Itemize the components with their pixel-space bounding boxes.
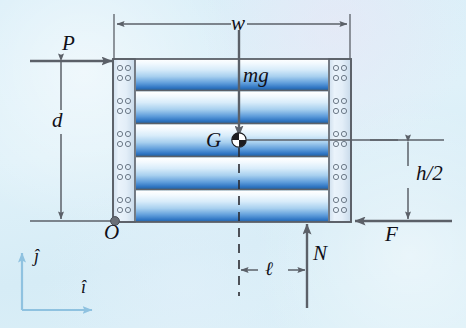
pipe-layer [136,92,328,123]
label-center-of-gravity-G: G [206,130,221,151]
left-rail-body [113,59,135,222]
pipe-layer [136,191,328,222]
label-origin-O: O [104,222,119,243]
engineering-diagram: w P d mg G O h/2 F N ℓ ĵ î [0,0,466,328]
label-force-N: N [313,243,327,264]
label-force-P: P [62,33,75,54]
label-height-d: d [52,110,63,131]
label-width-w: w [231,13,245,34]
label-offset-ell: ℓ [265,259,273,278]
label-weight-mg: mg [243,65,269,86]
pipe-layer [136,158,328,189]
label-force-F: F [385,224,398,245]
label-half-height: h/2 [416,163,443,184]
label-axis-i: î [81,278,86,296]
pipe-layer [136,59,328,90]
left-rail [113,59,135,222]
label-axis-j: ĵ [34,247,39,265]
